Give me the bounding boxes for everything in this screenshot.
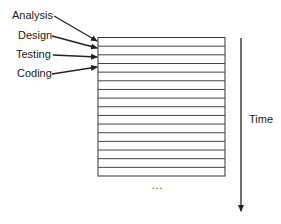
phase-arrows [52, 16, 97, 74]
coding-arrow [52, 67, 97, 74]
label-coding: Coding [17, 67, 52, 79]
label-testing: Testing [16, 48, 51, 60]
continuation-dots: ... [152, 180, 163, 191]
testing-arrow [53, 55, 97, 57]
time-axis-label: Time [249, 113, 273, 125]
analysis-arrow [54, 16, 97, 41]
label-design: Design [18, 29, 52, 41]
timeline-box [98, 38, 225, 177]
label-analysis: Analysis [12, 9, 53, 21]
